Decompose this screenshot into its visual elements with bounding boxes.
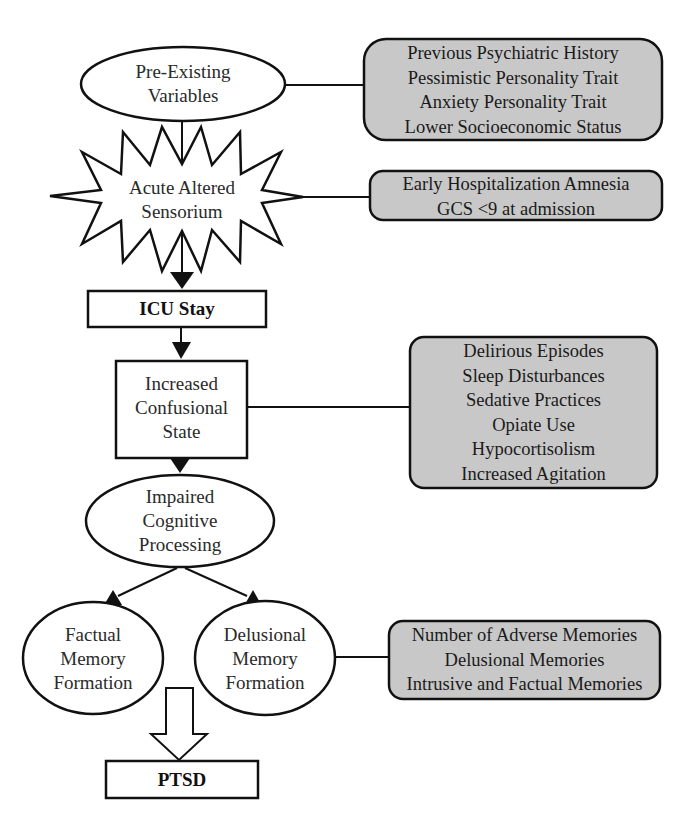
pre-existing-line-1: Pre-Existing bbox=[103, 60, 263, 84]
impaired-line-1: Impaired bbox=[100, 485, 260, 509]
factor-item: Lower Socioeconomic Status bbox=[364, 115, 662, 140]
arrowhead-icu-confusional bbox=[172, 342, 191, 359]
icu-stay-text: ICU Stay bbox=[88, 297, 266, 321]
pre-existing-line-2: Variables bbox=[103, 84, 263, 108]
flow-diagram: Pre-Existing Variables Acute Altered Sen… bbox=[0, 0, 698, 818]
delusional-line-3: Formation bbox=[195, 671, 335, 695]
impaired-line-2: Cognitive bbox=[100, 509, 260, 533]
acute-altered-label: Acute Altered Sensorium bbox=[102, 176, 262, 224]
factor-list-acute: Early Hospitalization Amnesia GCS <9 at … bbox=[370, 172, 662, 221]
edge-impaired-factual bbox=[118, 568, 177, 596]
delusional-line-2: Memory bbox=[195, 647, 335, 671]
factor-item: Delirious Episodes bbox=[410, 339, 657, 364]
confusional-line-2: Confusional bbox=[116, 396, 247, 420]
factor-item: Hypocortisolism bbox=[410, 437, 657, 462]
confusional-line-3: State bbox=[116, 420, 247, 444]
confusional-line-1: Increased bbox=[116, 372, 247, 396]
acute-altered-line-2: Sensorium bbox=[102, 200, 262, 224]
factor-item: Anxiety Personality Trait bbox=[364, 90, 662, 115]
ptsd-text: PTSD bbox=[106, 768, 258, 792]
arrowhead-confusional-impaired bbox=[170, 458, 190, 473]
factor-item: Opiate Use bbox=[410, 413, 657, 438]
factor-item: Pessimistic Personality Trait bbox=[364, 66, 662, 91]
factor-item: Sleep Disturbances bbox=[410, 364, 657, 389]
delusional-line-1: Delusional bbox=[195, 623, 335, 647]
factor-item: Increased Agitation bbox=[410, 462, 657, 487]
factual-line-2: Memory bbox=[23, 647, 163, 671]
factual-line-3: Formation bbox=[23, 671, 163, 695]
acute-altered-line-1: Acute Altered bbox=[102, 176, 262, 200]
factor-item: Previous Psychiatric History bbox=[364, 41, 662, 66]
factor-item: Number of Adverse Memories bbox=[389, 623, 660, 648]
factor-item: Sedative Practices bbox=[410, 388, 657, 413]
edge-impaired-delusional bbox=[185, 568, 247, 596]
factor-item: Early Hospitalization Amnesia bbox=[370, 172, 662, 197]
factor-list-pre-existing: Previous Psychiatric History Pessimistic… bbox=[364, 41, 662, 139]
factual-label: Factual Memory Formation bbox=[23, 623, 163, 695]
factor-list-delusional: Number of Adverse Memories Delusional Me… bbox=[389, 623, 660, 697]
arrowhead-acute-icu bbox=[170, 272, 194, 289]
factual-line-1: Factual bbox=[23, 623, 163, 647]
confusional-label: Increased Confusional State bbox=[116, 372, 247, 444]
hollow-arrow-to-ptsd bbox=[151, 688, 207, 760]
delusional-label: Delusional Memory Formation bbox=[195, 623, 335, 695]
factor-item: Intrusive and Factual Memories bbox=[389, 672, 660, 697]
icu-stay-label: ICU Stay bbox=[88, 297, 266, 321]
factor-item: GCS <9 at admission bbox=[370, 197, 662, 222]
ptsd-label: PTSD bbox=[106, 768, 258, 792]
factor-list-confusional: Delirious Episodes Sleep Disturbances Se… bbox=[410, 339, 657, 486]
factor-item: Delusional Memories bbox=[389, 648, 660, 673]
impaired-label: Impaired Cognitive Processing bbox=[100, 485, 260, 557]
impaired-line-3: Processing bbox=[100, 533, 260, 557]
pre-existing-label: Pre-Existing Variables bbox=[103, 60, 263, 108]
